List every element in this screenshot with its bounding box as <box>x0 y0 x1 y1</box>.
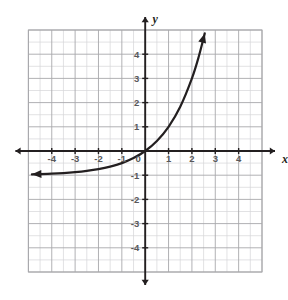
x-axis-label: x <box>281 152 288 166</box>
x-tick-label: 1 <box>166 153 172 164</box>
x-tick-label: 3 <box>213 153 218 164</box>
axis-arrowhead-down <box>142 280 149 285</box>
y-tick-label: 4 <box>134 49 140 60</box>
graph-canvas: -4-3-2-101234 4321-1-2-3-4 x y <box>0 0 288 300</box>
y-tick-label: -1 <box>131 170 140 181</box>
y-axis-label: y <box>151 12 159 26</box>
y-tick-label: -2 <box>131 194 139 205</box>
x-tick-label: -3 <box>71 153 79 164</box>
coordinate-graph-figure: -4-3-2-101234 4321-1-2-3-4 x y <box>0 0 288 300</box>
x-tick-label: -2 <box>94 153 102 164</box>
axis-arrowhead-right <box>270 147 275 154</box>
x-tick-label: -4 <box>48 153 57 164</box>
y-tick-label: -4 <box>131 242 140 253</box>
x-tick-label: -1 <box>118 153 127 164</box>
x-tick-label: 2 <box>189 153 194 164</box>
curve-arrowhead-start <box>32 170 42 178</box>
y-tick-label: 3 <box>134 73 139 84</box>
axis-arrowhead-up <box>142 17 149 22</box>
origin-label: 0 <box>136 153 141 164</box>
y-tick-label: -3 <box>131 218 139 229</box>
y-tick-label: 2 <box>134 97 139 108</box>
x-tick-label: 4 <box>236 153 242 164</box>
axis-arrowhead-left <box>15 147 20 154</box>
y-tick-label: 1 <box>134 121 140 132</box>
